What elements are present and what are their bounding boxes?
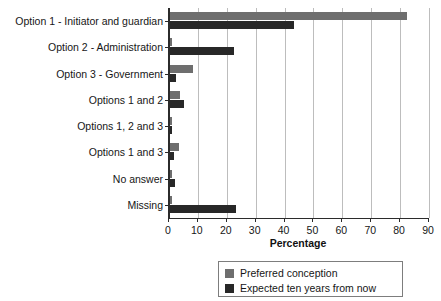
category-label: Options 1 and 3 [89,146,163,158]
category-label: Option 1 - Initiator and guardian [15,15,163,27]
bar-group: Option 2 - Administration [169,34,428,60]
x-tick-label: 90 [422,224,434,236]
bar-group: Options 1 and 2 [169,87,428,113]
x-tick [284,218,285,222]
x-tick-label: 70 [364,224,376,236]
bar-preferred [170,38,172,46]
x-tick [399,218,400,222]
bar-expected [170,74,176,82]
category-tick [165,126,169,127]
category-tick [165,74,169,75]
category-label: Options 1, 2 and 3 [77,120,163,132]
bar-group: Option 1 - Initiator and guardian [169,8,428,34]
category-label: No answer [113,173,163,185]
x-tick-label: 60 [335,224,347,236]
x-tick-label: 0 [165,224,171,236]
x-tick [168,218,169,222]
legend-item: Preferred conception [225,266,396,280]
bar-expected [170,47,234,55]
bar-chart: Option 1 - Initiator and guardianOption … [0,0,441,301]
category-tick [165,152,169,153]
x-tick [341,218,342,222]
bar-expected [170,179,175,187]
legend-item-label: Expected ten years from now [240,282,376,294]
bar-group: Option 3 - Government [169,61,428,87]
chart-legend: Preferred conception Expected ten years … [218,261,403,297]
bar-preferred [170,196,172,204]
x-tick-label: 50 [307,224,319,236]
bar-expected [170,126,172,134]
bar-expected [170,21,294,29]
bar-expected [170,205,236,213]
bar-group: No answer [169,166,428,192]
bar-group: Missing [169,192,428,218]
x-tick-label: 20 [220,224,232,236]
bar-group: Options 1, 2 and 3 [169,113,428,139]
x-tick [428,218,429,222]
category-label: Options 1 and 2 [89,94,163,106]
x-tick-label: 40 [278,224,290,236]
x-tick-label: 30 [249,224,261,236]
category-tick [165,179,169,180]
bar-preferred [170,143,179,151]
x-tick [370,218,371,222]
legend-item: Expected ten years from now [225,281,396,295]
bar-preferred [170,117,172,125]
category-tick [165,47,169,48]
x-tick [312,218,313,222]
category-tick [165,100,169,101]
category-label: Missing [127,199,163,211]
x-axis-title: Percentage [168,237,428,249]
x-axis: 0102030405060708090 [168,218,428,219]
bar-preferred [170,65,193,73]
category-tick [165,205,169,206]
plot-area: Option 1 - Initiator and guardianOption … [168,8,428,218]
legend-swatch-icon [225,284,234,293]
category-label: Option 2 - Administration [48,41,163,53]
bar-preferred [170,170,172,178]
bar-expected [170,100,184,108]
bar-preferred [170,12,407,20]
x-tick [255,218,256,222]
x-tick-label: 80 [393,224,405,236]
bar-rows: Option 1 - Initiator and guardianOption … [169,8,428,218]
x-tick [197,218,198,222]
bar-group: Options 1 and 3 [169,139,428,165]
category-tick [165,21,169,22]
x-tick [226,218,227,222]
legend-item-label: Preferred conception [240,267,337,279]
legend-swatch-icon [225,269,234,278]
category-label: Option 3 - Government [56,68,163,80]
bar-expected [170,152,174,160]
x-tick-label: 10 [191,224,203,236]
bar-preferred [170,91,180,99]
gridline [429,8,430,218]
